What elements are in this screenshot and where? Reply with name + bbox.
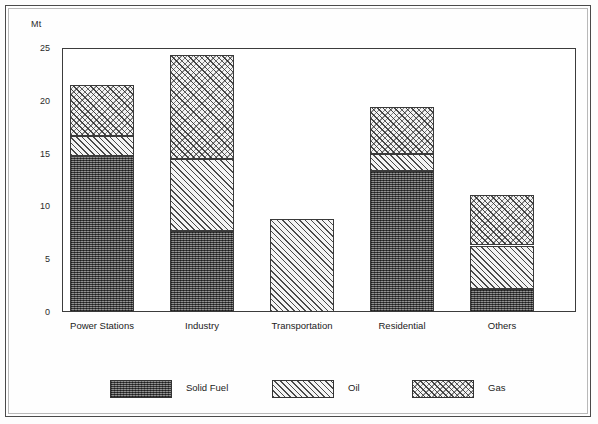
x-axis-tick-label: Industry [185,320,219,331]
y-axis-tick-label: 10 [28,201,50,211]
bar-segment-oil [370,154,434,171]
bar-transportation [270,311,334,312]
bar-power-stations [70,311,134,312]
y-axis-tick-label: 5 [28,254,50,264]
x-axis-tick-label: Transportation [272,320,333,331]
bar-residential [370,311,434,312]
bar-segment-oil [170,159,234,231]
bar-segment-solid-fuel [170,231,234,312]
bar-segment-oil [470,246,534,289]
legend-label: Gas [488,382,505,393]
y-axis-tick-label: 15 [28,149,50,159]
x-axis-tick-label: Others [488,320,517,331]
chart-figure: Mt 0510152025 Power StationsIndustryTran… [0,0,598,424]
legend-swatch-solid-fuel [110,380,172,398]
bar-segment-gas [70,85,134,136]
legend-swatch-oil [272,380,334,398]
bar-segment-gas [170,55,234,158]
bar-segment-solid-fuel [470,289,534,312]
legend-swatch-gas [412,380,474,398]
x-axis-tick-label: Residential [379,320,426,331]
chart-legend: Solid FuelOilGas [0,378,598,402]
bar-segment-solid-fuel [70,156,134,312]
bar-others [470,311,534,312]
bar-segment-oil [70,136,134,156]
legend-label: Oil [348,382,360,393]
bar-segment-gas [370,107,434,153]
bar-industry [170,311,234,312]
x-axis-tick-label: Power Stations [70,320,134,331]
bar-segment-solid-fuel [370,171,434,313]
legend-label: Solid Fuel [186,382,228,393]
bar-segment-oil [270,219,334,312]
bar-segment-gas [470,195,534,246]
y-axis-tick-label: 25 [28,43,50,53]
y-axis-tick-label: 20 [28,96,50,106]
y-axis-tick-label: 0 [28,307,50,317]
y-axis-unit-label: Mt [31,19,42,29]
